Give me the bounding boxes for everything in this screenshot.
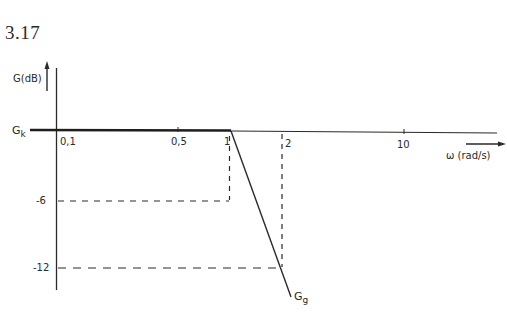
gk-label: Gk — [12, 124, 27, 139]
x-tick-label-10: 10 — [397, 139, 410, 150]
y-tick-label-minus12: -12 — [33, 262, 49, 273]
x-tick-label-0.1: 0,1 — [60, 136, 76, 147]
gg-label: Gg — [294, 290, 308, 305]
y-tick-label-minus6: -6 — [36, 195, 46, 206]
x-axis-label: ω (rad/s) — [446, 150, 491, 161]
y-axis-arrowhead-icon — [45, 61, 50, 69]
x-tick-label-2: 2 — [285, 138, 291, 149]
x-axis-arrowhead-icon — [498, 142, 506, 147]
x-axis — [230, 131, 497, 133]
x-tick-label-0.5: 0,5 — [171, 136, 187, 147]
gk-asymptote — [30, 130, 231, 131]
bode-diagram: G(dB) Gk 0,1 0,5 1 2 10 ω (rad/s) Gg -6 … — [0, 0, 507, 319]
y-axis-label: G(dB) — [13, 73, 42, 84]
